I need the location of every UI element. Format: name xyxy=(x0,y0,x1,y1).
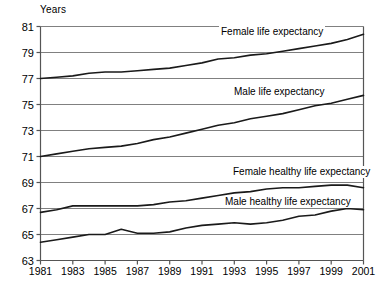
x-tick-label-1993: 1993 xyxy=(223,265,246,277)
y-tick-label-69: 69 xyxy=(4,177,34,189)
x-tick-label-1989: 1989 xyxy=(158,265,181,277)
x-tick-label-1997: 1997 xyxy=(287,265,310,277)
series-label-2: Female healthy life expectancy xyxy=(231,166,372,178)
series-line-0 xyxy=(41,34,364,78)
x-tick-label-1999: 1999 xyxy=(320,265,343,277)
x-tick-label-1995: 1995 xyxy=(255,265,278,277)
y-tick-labels: 63656769717375777981 xyxy=(0,0,34,288)
series-label-0: Female life expectancy xyxy=(219,26,325,38)
y-tick-label-67: 67 xyxy=(4,203,34,215)
series-label-3: Male healthy life expectancy xyxy=(223,196,353,208)
y-tick-label-81: 81 xyxy=(4,21,34,33)
series-lines xyxy=(41,34,364,242)
plot-area xyxy=(0,0,388,288)
x-tick-label-1985: 1985 xyxy=(93,265,116,277)
y-tick-label-79: 79 xyxy=(4,47,34,59)
y-tick-label-77: 77 xyxy=(4,73,34,85)
y-tick-label-65: 65 xyxy=(4,229,34,241)
x-tick-label-1991: 1991 xyxy=(190,265,213,277)
series-line-3 xyxy=(41,209,364,243)
x-tick-label-1981: 1981 xyxy=(29,265,52,277)
y-tick-label-71: 71 xyxy=(4,151,34,163)
x-tick-label-1987: 1987 xyxy=(126,265,149,277)
series-label-1: Male life expectancy xyxy=(232,86,327,98)
x-tick-label-1983: 1983 xyxy=(61,265,84,277)
y-tick-label-75: 75 xyxy=(4,99,34,111)
x-tick-label-2001: 2001 xyxy=(352,265,375,277)
y-tick-label-73: 73 xyxy=(4,125,34,137)
life-expectancy-chart: Years 63656769717375777981 1981198319851… xyxy=(0,0,388,288)
